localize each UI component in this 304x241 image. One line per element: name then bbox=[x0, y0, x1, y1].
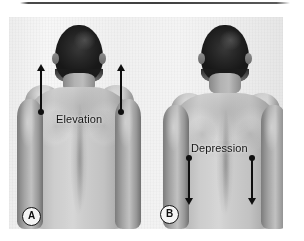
arrow-down-icon bbox=[248, 198, 256, 205]
panel-a-ear-right bbox=[99, 53, 106, 64]
panel-b-neck bbox=[209, 73, 241, 95]
figure-root: Elevation A bbox=[0, 0, 304, 241]
panel-badge-b: B bbox=[160, 205, 179, 224]
photo-plate: Elevation A bbox=[9, 17, 283, 229]
panel-badge-a: A bbox=[22, 207, 41, 226]
arrow-shaft bbox=[40, 70, 42, 112]
panel-a-movement-label: Elevation bbox=[56, 113, 102, 125]
panel-b-movement-label: Depression bbox=[191, 142, 248, 154]
panel-b-subject bbox=[157, 17, 283, 229]
panel-a-ear-left bbox=[52, 53, 59, 64]
arrow-shaft bbox=[188, 158, 190, 199]
panel-a-arm-right bbox=[115, 99, 141, 229]
dot-marker-icon bbox=[38, 109, 44, 115]
arrow-down-icon bbox=[185, 198, 193, 205]
panel-b-ear-right bbox=[245, 53, 252, 64]
arrow-shaft bbox=[120, 70, 122, 112]
panel-b-arm-right bbox=[261, 105, 283, 229]
dot-marker-icon bbox=[186, 155, 192, 161]
arrow-up-icon bbox=[37, 64, 45, 71]
photo-inner: Elevation A bbox=[9, 17, 283, 229]
panel-b-ear-left bbox=[198, 53, 205, 64]
top-divider-rule bbox=[20, 2, 290, 4]
arrow-shaft bbox=[251, 158, 253, 199]
dot-marker-icon bbox=[118, 109, 124, 115]
arrow-up-icon bbox=[117, 64, 125, 71]
dot-marker-icon bbox=[249, 155, 255, 161]
